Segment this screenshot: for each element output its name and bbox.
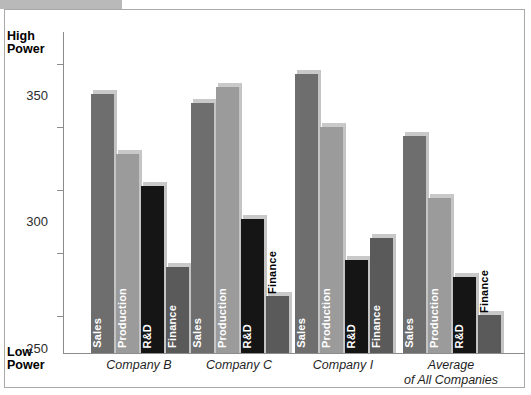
- bar-side-face: [289, 292, 292, 353]
- axis-low-power-line2: Power: [7, 359, 45, 372]
- bar: Production: [428, 198, 451, 353]
- bar-body: [320, 127, 343, 353]
- bar-body: [141, 186, 164, 353]
- bar: Sales: [191, 103, 214, 353]
- bar-body: [191, 103, 214, 353]
- bar-body: [403, 136, 426, 353]
- y-axis-line: [63, 32, 64, 354]
- bar-body: [428, 198, 451, 353]
- bar-body: [241, 219, 264, 353]
- bar-body: [216, 87, 239, 353]
- y-tick-mark: 200: [57, 253, 63, 254]
- y-tick-mark: 300: [57, 127, 63, 128]
- bar-body: [266, 296, 289, 353]
- y-tick-mark: 250: [57, 190, 63, 191]
- bar-side-face: [501, 311, 504, 353]
- bar-body: [370, 238, 393, 353]
- bar: R&D: [241, 219, 264, 353]
- plot-area: 150200250300350 SalesProductionR&DFinanc…: [63, 32, 525, 354]
- bar: Finance: [370, 238, 393, 353]
- bar: Production: [216, 87, 239, 353]
- x-axis-line: [63, 353, 525, 354]
- axis-high-power-line2: Power: [7, 43, 45, 56]
- bar: Finance: [166, 267, 189, 353]
- y-tick-mark: 150: [57, 316, 63, 317]
- bar: R&D: [141, 186, 164, 353]
- bar: Sales: [295, 74, 318, 353]
- bar-body: [453, 277, 476, 353]
- bar: Finance: [478, 315, 501, 353]
- bar-label: Finance: [266, 251, 289, 294]
- page-frame: High Power Low Power 150200250300350 Sal…: [4, 9, 525, 388]
- bar: Sales: [91, 94, 114, 353]
- y-tick-mark: 350: [57, 64, 63, 65]
- bar: R&D: [453, 277, 476, 353]
- bar-side-face: [393, 234, 396, 353]
- y-tick-label: 350: [26, 88, 48, 103]
- bar: Sales: [403, 136, 426, 353]
- y-tick-label: 250: [26, 340, 48, 355]
- bar: Production: [320, 127, 343, 353]
- bar: Production: [116, 154, 139, 354]
- chart-figure: High Power Low Power 150200250300350 Sal…: [0, 0, 531, 395]
- bar-body: [345, 260, 368, 353]
- group-caption: Average of All Companies: [389, 358, 513, 388]
- bar-body: [478, 315, 501, 353]
- bar-body: [166, 267, 189, 353]
- bar-body: [91, 94, 114, 353]
- bar-body: [116, 154, 139, 354]
- bar: Finance: [266, 296, 289, 353]
- group-caption: Company I: [281, 358, 405, 373]
- bar-label: Finance: [478, 270, 501, 313]
- y-tick-label: 300: [26, 214, 48, 229]
- bar: R&D: [345, 260, 368, 353]
- axis-high-power-label: High Power: [7, 30, 45, 56]
- bar-body: [295, 74, 318, 353]
- page-edge-artifact: [0, 0, 122, 9]
